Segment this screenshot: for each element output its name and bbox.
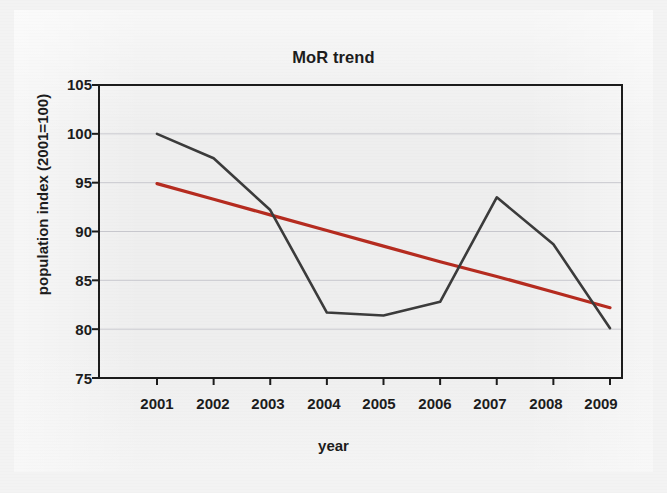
trend-line-series [157, 184, 610, 308]
gridlines [99, 134, 622, 329]
mor-trend-chart: MoR trend population index (2001=100) ye… [0, 0, 667, 493]
plot-area [0, 0, 667, 493]
axis-ticks [92, 85, 610, 385]
